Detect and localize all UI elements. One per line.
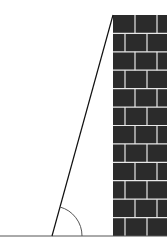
brick-wall bbox=[113, 15, 167, 236]
ladder bbox=[52, 15, 113, 236]
ladder-wall-diagram bbox=[0, 0, 167, 246]
angle-arc bbox=[60, 207, 82, 236]
